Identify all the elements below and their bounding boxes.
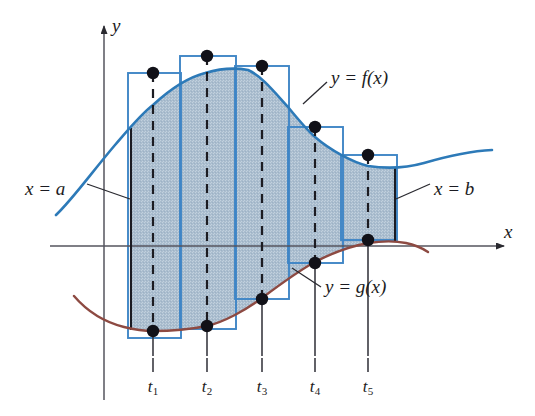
dot-g-t5 [362, 234, 374, 246]
x-axis-label: x [504, 222, 512, 241]
leader-line-xb [396, 184, 430, 199]
dot-f-t2 [201, 50, 213, 62]
tick-label-t4-sub: 4 [315, 385, 321, 397]
dot-g-t2 [201, 320, 213, 332]
dot-f-t3 [256, 60, 268, 72]
figure-canvas: y x y = f(x) y = g(x) x = a x = b t1 t2 … [0, 0, 535, 416]
tick-label-t3-sub: 3 [262, 385, 268, 397]
tick-label-t1: t1 [148, 378, 159, 397]
tick-marks [153, 358, 368, 372]
dot-g-t3 [256, 293, 268, 305]
tick-label-t5-sub: 5 [368, 385, 374, 397]
curve-f-label: y = f(x) [331, 68, 388, 87]
leader-line-xa [87, 184, 130, 199]
right-bound-label: x = b [434, 179, 474, 198]
dot-f-t5 [362, 149, 374, 161]
curve-g-label: y = g(x) [325, 277, 386, 296]
tick-label-t2: t2 [202, 378, 213, 397]
dot-f-t1 [147, 67, 159, 79]
left-bound-label: x = a [25, 179, 65, 198]
tick-label-t3: t3 [257, 378, 268, 397]
leader-line-gx [292, 268, 321, 287]
leader-line-fx [303, 82, 327, 104]
tick-label-t5: t5 [363, 378, 374, 397]
dot-g-t4 [309, 257, 321, 269]
dot-g-t1 [147, 325, 159, 337]
dot-f-t4 [309, 121, 321, 133]
y-axis-label: y [112, 16, 120, 35]
tick-label-t1-sub: 1 [153, 385, 159, 397]
tick-label-t4: t4 [310, 378, 321, 397]
diagram-svg [0, 0, 535, 416]
tick-label-t2-sub: 2 [207, 385, 213, 397]
